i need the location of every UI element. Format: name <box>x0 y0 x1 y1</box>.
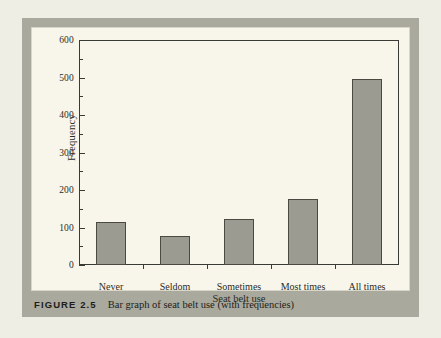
y-axis-major-tick <box>79 153 85 154</box>
bar <box>160 236 190 265</box>
figure-caption-text: Bar graph of seat belt use (with frequen… <box>108 299 294 310</box>
y-axis-minor-tick <box>79 96 83 97</box>
bar <box>224 219 254 265</box>
y-axis-major-tick <box>79 190 85 191</box>
figure-panel: 0100200300400500600 Frequency NeverSeldo… <box>31 27 410 291</box>
y-axis-minor-tick <box>79 134 83 135</box>
x-axis-category-label: Seldom <box>160 281 191 292</box>
y-axis-tick-label: 100 <box>59 223 74 233</box>
y-axis-tick-label: 600 <box>59 35 74 45</box>
y-axis-minor-tick <box>79 209 83 210</box>
bar <box>288 199 318 265</box>
bar <box>96 222 126 265</box>
x-axis-tick <box>207 265 208 269</box>
x-axis-tick <box>271 265 272 269</box>
x-axis-tick <box>335 265 336 269</box>
y-axis-tick-label: 500 <box>59 73 74 83</box>
x-axis-category-label: Never <box>99 281 123 292</box>
y-axis-major-tick <box>79 228 85 229</box>
figure-number: FIGURE 2.5 <box>34 299 97 310</box>
x-axis-category-label: All times <box>349 281 386 292</box>
y-axis-tick-label: 200 <box>59 185 74 195</box>
bar <box>352 79 382 265</box>
y-axis-major-tick <box>79 115 85 116</box>
y-axis-minor-tick <box>79 171 83 172</box>
y-axis-title: Frequency <box>66 93 77 183</box>
figure-page: 0100200300400500600 Frequency NeverSeldo… <box>0 0 441 338</box>
figure-caption: FIGURE 2.5 Bar graph of seat belt use (w… <box>34 296 409 312</box>
x-axis-category-label: Sometimes <box>217 281 261 292</box>
y-axis-tick-label: 0 <box>69 260 74 270</box>
x-axis-category-labels: NeverSeldomSometimesMost timesAll times <box>79 40 399 80</box>
y-axis-minor-tick <box>79 246 83 247</box>
x-axis-category-label: Most times <box>281 281 326 292</box>
x-axis-tick <box>143 265 144 269</box>
figure-frame: 0100200300400500600 Frequency NeverSeldo… <box>22 18 419 317</box>
y-axis-major-tick <box>79 265 85 266</box>
